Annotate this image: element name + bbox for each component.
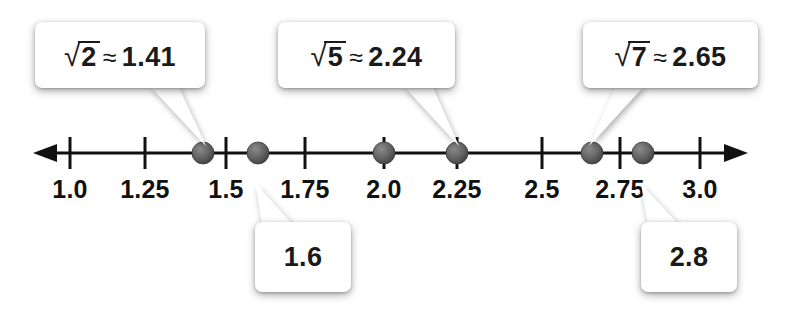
callout-sqrt7: √7≈2.65 (583, 22, 758, 88)
radical-sign-icon: √7 (614, 40, 650, 71)
tail-onesix (256, 184, 292, 224)
radical-sign-icon: √5 (310, 40, 346, 71)
tail-twoeight (641, 184, 678, 224)
callout-two-point-eight-text: 2.8 (670, 244, 709, 271)
tail-sqrt2 (150, 86, 206, 146)
callout-sqrt5-text: √5≈2.24 (310, 40, 422, 71)
tail-sqrt7 (589, 86, 644, 146)
callout-sqrt2-text: √2≈1.41 (64, 40, 176, 71)
callout-sqrt5: √5≈2.24 (278, 22, 455, 88)
callout-sqrt2: √2≈1.41 (35, 22, 205, 88)
callout-one-point-six-text: 1.6 (284, 244, 323, 271)
radical-sign-icon: √2 (64, 40, 100, 71)
callout-two-point-eight: 2.8 (641, 222, 737, 292)
number-line-figure: 1.01.251.51.752.02.252.52.753.0 √2≈1.41 … (0, 0, 789, 320)
callout-one-point-six: 1.6 (255, 222, 351, 292)
callout-sqrt7-text: √7≈2.65 (614, 40, 726, 71)
tail-sqrt5 (404, 86, 459, 146)
